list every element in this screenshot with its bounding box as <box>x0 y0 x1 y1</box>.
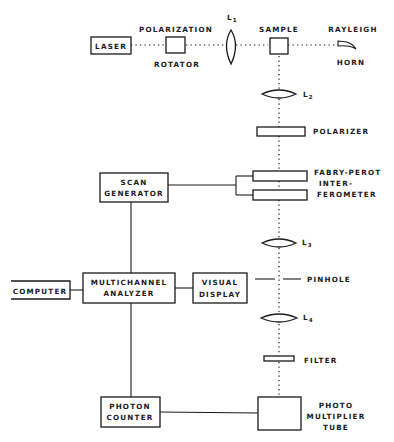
lens-l3-sub: 3 <box>308 242 313 248</box>
photon-counter: PHOTON COUNTER <box>101 397 160 427</box>
photo-multiplier-tube: PHOTO MULTIPLIER TUBE <box>258 397 365 432</box>
sample-label: SAMPLE <box>259 25 299 34</box>
fabry-perot-interferometer: FABRY-PEROT INTER- FEROMETER <box>253 168 381 200</box>
photon-counter-label-1: PHOTON <box>109 402 151 411</box>
lens-icon <box>262 239 296 247</box>
visual-display: VISUAL DISPLAY <box>193 273 247 303</box>
computer-label: COMPUTER <box>13 287 68 296</box>
pinhole-label: PINHOLE <box>307 275 351 284</box>
rayleigh-horn-label-1: RAYLEIGH <box>328 25 377 34</box>
pmt-label-2: MULTIPLIER <box>307 412 366 421</box>
laser-box: LASER <box>91 37 131 54</box>
lens-l1: L1 <box>227 13 238 64</box>
visual-display-label-2: DISPLAY <box>199 290 241 299</box>
svg-text:L1: L1 <box>227 13 238 23</box>
multichannel-analyzer: MULTICHANNEL ANALYZER <box>83 273 175 303</box>
polarization-rotator: POLARIZATION ROTATOR <box>139 25 213 69</box>
rayleigh-horn-label-2: HORN <box>337 58 365 67</box>
pmt-label-1: PHOTO <box>319 401 353 410</box>
scan-generator-label-2: GENERATOR <box>104 189 164 198</box>
visual-display-label-1: VISUAL <box>202 278 238 287</box>
multichannel-analyzer-label-2: ANALYZER <box>103 289 154 298</box>
pmt-label-3: TUBE <box>323 423 349 432</box>
lens-icon <box>262 90 296 98</box>
polarization-rotator-label-1: POLARIZATION <box>139 25 213 34</box>
scan-generator-label-1: SCAN <box>121 178 148 187</box>
lens-l4-sub: 4 <box>309 317 314 323</box>
svg-text:L4: L4 <box>303 313 314 323</box>
laser-label: LASER <box>95 42 127 51</box>
photon-counter-label-2: COUNTER <box>107 413 154 422</box>
lens-icon <box>261 314 297 322</box>
horn-icon <box>338 41 356 49</box>
fabry-perot-label-1: FABRY-PEROT <box>314 168 381 177</box>
scan-generator: SCAN GENERATOR <box>100 173 168 202</box>
polarizer-label: POLARIZER <box>313 127 369 136</box>
lens-l2-sub: 2 <box>309 94 314 100</box>
lens-l1-sub: 1 <box>233 17 238 23</box>
pinhole: PINHOLE <box>255 275 351 284</box>
lens-l2: L2 <box>262 90 314 100</box>
sample: SAMPLE <box>259 25 299 54</box>
lens-l4: L4 <box>261 313 314 323</box>
lens-l3: L3 <box>262 238 313 248</box>
fabry-perot-label-2: INTER- <box>319 179 353 188</box>
filter: FILTER <box>264 356 338 365</box>
rayleigh-horn: RAYLEIGH HORN <box>328 25 377 67</box>
filter-label: FILTER <box>304 356 338 365</box>
svg-text:L2: L2 <box>303 90 314 100</box>
polarizer: POLARIZER <box>257 127 369 136</box>
spectrometer-block-diagram: LASER POLARIZATION ROTATOR L1 SAMPLE RAY… <box>0 0 394 442</box>
multichannel-analyzer-label-1: MULTICHANNEL <box>91 278 168 287</box>
svg-text:L3: L3 <box>302 238 313 248</box>
fabry-perot-label-3: FEROMETER <box>317 190 377 199</box>
polarization-rotator-label-2: ROTATOR <box>154 60 200 69</box>
lens-icon <box>227 30 236 64</box>
computer: COMPUTER <box>11 281 70 299</box>
